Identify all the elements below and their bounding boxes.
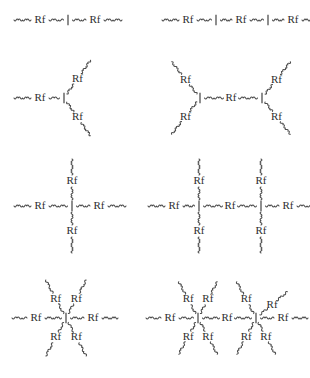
polymer-architecture-diagram: RfRfRfRfRfRfRfRfRfRfRfRfRfRfRfRfRfRfRfRf… [0, 0, 310, 378]
polymer-chain-segment [79, 280, 86, 293]
polymer-chain-segment [71, 237, 73, 253]
rf-segment-label: Rf [35, 13, 46, 25]
polymer-chain-segment [45, 317, 62, 319]
polymer-chain-segment [205, 97, 224, 99]
rf-segment-label: Rf [225, 199, 236, 211]
polymer-chain-segment [260, 159, 262, 175]
polymer-chain-segment [198, 159, 200, 175]
rf-segment-label: Rf [241, 330, 252, 342]
polymer-chain-segment [198, 187, 200, 200]
polymer-chain-segment [260, 187, 262, 200]
polymer-chain-segment [249, 305, 254, 314]
polymer-chain-segment [268, 342, 275, 354]
polymer-chain-segment [58, 304, 63, 314]
rf-segment-label: Rf [278, 311, 289, 323]
rf-segment-label: Rf [222, 311, 233, 323]
polymer-chain-segment [261, 317, 275, 319]
rf-segment-label: Rf [165, 311, 176, 323]
polymer-chain-segment [79, 343, 87, 356]
polymer-chain-segment [14, 19, 31, 21]
polymer-chain-segment [273, 19, 285, 21]
polymer-chain-segment [49, 205, 68, 207]
rf-segment-label: Rf [271, 110, 282, 122]
rf-segment-label: Rf [94, 199, 105, 211]
polymer-chain-segment [221, 19, 233, 21]
rf-segment-label: Rf [202, 330, 213, 342]
polymer-chain-segment [198, 237, 200, 253]
polymer-chain-segment [81, 123, 90, 136]
polymer-chain-segment [197, 19, 212, 21]
polymer-chain-segment [280, 62, 290, 75]
polymer-chain-segment [302, 19, 310, 21]
polymer-chain-segment [204, 205, 223, 207]
polymer-chain-segment [265, 85, 272, 95]
polymer-chain-segment [203, 317, 220, 319]
rf-segment-label: Rf [194, 224, 205, 236]
polymer-chain-segment [77, 205, 91, 207]
polymer-chain-segment [12, 317, 27, 319]
polymer-chain-segment [191, 305, 196, 314]
polymer-chain-segment [183, 205, 195, 207]
rf-segment-label: Rf [35, 199, 46, 211]
rf-segment-label: Rf [236, 13, 247, 25]
rf-segment-label: Rf [283, 199, 294, 211]
rf-segment-label: Rf [72, 110, 83, 122]
rf-segment-label: Rf [180, 110, 191, 122]
polymer-chain-segment [210, 342, 217, 354]
polymer-chain-segment [46, 343, 53, 356]
polymer-chain-segment [200, 305, 205, 314]
polymer-chain-segment [179, 317, 194, 319]
polymer-chain-segment [292, 317, 308, 319]
polymer-chain-segment [280, 122, 290, 135]
polymer-chain-segment [146, 317, 161, 319]
polymer-chain-segment [250, 19, 264, 21]
polymer-chain-segment [71, 317, 85, 319]
rf-segment-label: Rf [183, 330, 194, 342]
polymer-chain-segment [14, 205, 31, 207]
architecture-canvas: RfRfRfRfRfRfRfRfRfRfRfRfRfRfRfRfRfRfRfRf… [0, 0, 310, 378]
rf-segment-label: Rf [183, 292, 194, 304]
polymer-chain-segment [14, 97, 31, 99]
polymer-chain-segment [179, 342, 186, 354]
polymer-chain-segment [81, 60, 90, 73]
polymer-chain-segment [266, 205, 280, 207]
polymer-chain-segment [49, 19, 64, 21]
rf-segment-label: Rf [256, 174, 267, 186]
polymer-chain-segment [277, 291, 288, 300]
polymer-chain-segment [102, 317, 118, 319]
polymer-chain-segment [172, 62, 182, 75]
rf-segment-label: Rf [288, 13, 299, 25]
rf-segment-label: Rf [267, 298, 278, 310]
polymer-chain-segment [237, 342, 244, 354]
rf-segment-label: Rf [31, 311, 42, 323]
polymer-chain-segment [71, 159, 73, 175]
rf-segment-label: Rf [71, 330, 82, 342]
rf-segment-label: Rf [50, 292, 61, 304]
rf-segment-label: Rf [241, 292, 252, 304]
polymer-chain-segment [238, 205, 257, 207]
polymer-chain-segment [211, 282, 218, 294]
polymer-chain-segment [148, 205, 165, 207]
polymer-chain-segment [67, 84, 74, 94]
rf-segment-label: Rf [67, 224, 78, 236]
rf-segment-label: Rf [194, 174, 205, 186]
rf-segment-label: Rf [256, 224, 267, 236]
polymer-chain-segment [49, 97, 60, 99]
polymer-chain-segment [162, 19, 179, 21]
rf-segment-label: Rf [226, 91, 237, 103]
polymer-chain-segment [171, 122, 181, 135]
polymer-chain-segment [297, 205, 310, 207]
polymer-chain-segment [260, 237, 262, 253]
polymer-chain-segment [239, 97, 258, 99]
rf-segment-label: Rf [169, 199, 180, 211]
rf-segment-label: Rf [260, 330, 271, 342]
rf-segment-label: Rf [50, 330, 61, 342]
polymer-chain-segment [235, 317, 252, 319]
rf-segment-label: Rf [90, 13, 101, 25]
rf-segment-label: Rf [35, 91, 46, 103]
polymer-chain-segment [71, 187, 73, 200]
polymer-chain-segment [108, 205, 126, 207]
polymer-chain-segment [73, 19, 87, 21]
rf-segment-label: Rf [88, 311, 99, 323]
rf-segment-label: Rf [67, 174, 78, 186]
